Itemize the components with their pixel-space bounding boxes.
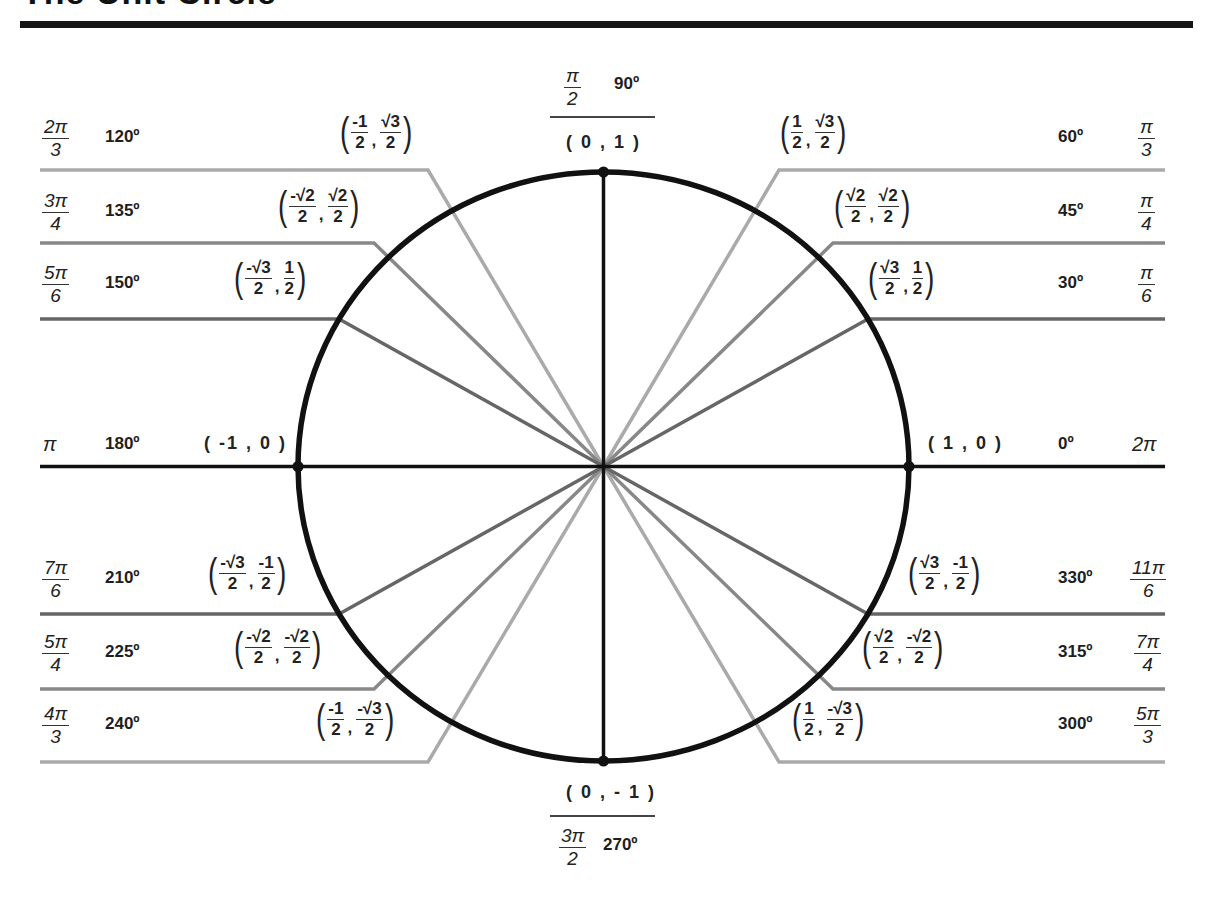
coord-label-225: ( -√22 , -√22 )	[232, 627, 323, 667]
coord-label-270: ( 0 , - 1 )	[566, 782, 656, 803]
degree-label-0: 0º	[1058, 434, 1074, 454]
degree-label-210: 210º	[105, 568, 140, 588]
radian-label-240: 4π 3	[42, 704, 69, 746]
radian-label-0: 2π	[1132, 433, 1157, 456]
coord-label-180: ( -1 , 0 )	[204, 433, 287, 454]
degree-label-30: 30º	[1058, 273, 1083, 293]
radian-label-180: π	[43, 433, 56, 456]
degree-label-315: 315º	[1058, 642, 1093, 662]
degree-label-60: 60º	[1058, 127, 1083, 147]
coord-label-90: ( 0 , 1 )	[566, 132, 641, 153]
degree-label-300: 300º	[1058, 714, 1093, 734]
radian-label-210: 7π 6	[42, 558, 69, 600]
radian-label-30: π 6	[1138, 263, 1155, 305]
leader-line-30	[604, 319, 1166, 467]
coord-label-150: ( -√32 , 12 )	[232, 258, 308, 298]
degree-label-240: 240º	[105, 714, 140, 734]
radian-label-270: 3π 2	[559, 826, 586, 868]
radian-label-150: 5π 6	[42, 263, 69, 305]
coord-label-0: ( 1 , 0 )	[928, 433, 1003, 454]
degree-label-90: 90º	[614, 74, 639, 94]
radian-label-120: 2π 3	[42, 117, 69, 159]
leader-line-330	[604, 467, 1166, 615]
radian-label-225: 5π 4	[42, 632, 69, 674]
degree-label-270: 270º	[603, 835, 638, 855]
radian-label-135: 3π 4	[42, 191, 69, 233]
degree-label-330: 330º	[1058, 568, 1093, 588]
radian-label-330: 11π 6	[1130, 558, 1166, 600]
coord-label-30: ( √32 , 12 )	[866, 258, 937, 298]
point-90	[598, 167, 609, 178]
point-270	[598, 756, 609, 767]
radian-label-90: π 2	[564, 66, 581, 108]
degree-label-225: 225º	[105, 642, 140, 662]
radian-label-60: π 3	[1138, 117, 1155, 159]
label-divider-270	[550, 815, 655, 817]
coord-label-45: ( √22 , √22 )	[832, 186, 912, 226]
radian-label-315: 7π 4	[1134, 632, 1161, 674]
coord-label-135: ( -√22 , √22 )	[276, 186, 362, 226]
coord-label-60: ( 12 , √32 )	[778, 112, 849, 152]
coord-label-330: ( √32 , -12 )	[906, 553, 982, 593]
coord-label-315: ( √22 , -√22 )	[860, 627, 946, 667]
label-divider-90	[550, 116, 655, 118]
point-0	[904, 461, 915, 472]
degree-label-180: 180º	[105, 434, 140, 454]
coord-label-300: ( 12 , -√32 )	[790, 699, 866, 739]
radian-label-45: π 4	[1138, 191, 1155, 233]
degree-label-150: 150º	[105, 273, 140, 293]
degree-label-45: 45º	[1058, 201, 1083, 221]
radian-label-300: 5π 3	[1134, 704, 1161, 746]
point-180	[293, 461, 304, 472]
coord-label-210: ( -√32 , -12 )	[206, 553, 288, 593]
degree-label-135: 135º	[105, 201, 140, 221]
coord-label-240: ( -12 , -√32 )	[314, 699, 396, 739]
leader-line-210	[40, 467, 604, 615]
degree-label-120: 120º	[105, 127, 140, 147]
coord-label-120: ( -12 , √32 )	[338, 112, 414, 152]
